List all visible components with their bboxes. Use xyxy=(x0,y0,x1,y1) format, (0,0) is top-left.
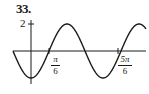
x-tick-label-5pi-6: 5π 6 xyxy=(118,55,132,76)
x-tick-label-pi-6: π 6 xyxy=(51,55,60,76)
sine-graph xyxy=(0,0,149,94)
